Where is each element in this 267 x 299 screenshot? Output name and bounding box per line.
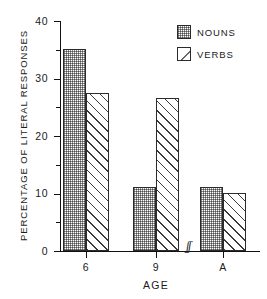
legend-label-nouns: NOUNS	[197, 27, 236, 38]
y-tick-label-10: 10	[26, 187, 48, 199]
y-tick-label-40: 40	[26, 15, 48, 27]
x-tick-9	[156, 252, 157, 258]
y-tick-label-30: 30	[26, 72, 48, 84]
bar-nouns-6[interactable]	[63, 49, 86, 250]
bar-nouns-a[interactable]	[200, 187, 223, 250]
legend-item-verbs[interactable]: VERBS	[177, 44, 236, 64]
legend: NOUNS VERBS	[177, 22, 236, 66]
bar-nouns-9[interactable]	[133, 187, 156, 250]
bar-verbs-6[interactable]	[86, 93, 109, 251]
y-tick-label-20: 20	[26, 130, 48, 142]
bar-chart-figure: PERCENTAGE OF LITERAL RESPONSES 40 30 20…	[0, 0, 267, 299]
y-tick-label-0: 0	[26, 245, 48, 257]
x-tick-label-a: A	[211, 261, 235, 273]
legend-item-nouns[interactable]: NOUNS	[177, 22, 236, 42]
x-axis-title: AGE	[108, 279, 204, 291]
bar-verbs-9[interactable]	[156, 98, 179, 250]
x-tick-label-6: 6	[74, 261, 98, 273]
y-axis-line	[60, 21, 61, 252]
legend-label-verbs: VERBS	[197, 49, 234, 60]
x-tick-a	[223, 252, 224, 258]
bar-verbs-a[interactable]	[223, 193, 246, 251]
legend-swatch-nouns-icon	[177, 25, 191, 39]
legend-swatch-verbs-icon	[177, 47, 191, 61]
x-axis-line	[60, 251, 260, 252]
x-tick-label-9: 9	[144, 261, 168, 273]
x-tick-6	[86, 252, 87, 258]
axis-break-icon: ʃʃ	[186, 239, 190, 254]
